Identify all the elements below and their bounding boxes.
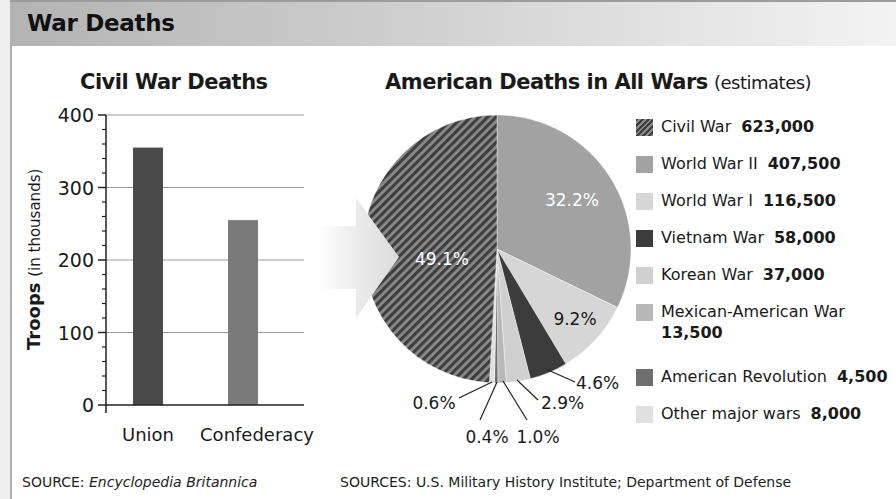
legend-item: Vietnam War58,000 (636, 228, 836, 247)
legend-swatch (636, 267, 653, 284)
leader-line (480, 382, 497, 420)
legend-label: American Revolution (661, 367, 827, 386)
y-tick-label: 400 (58, 104, 94, 126)
legend-swatch (636, 406, 653, 423)
pie-percent-label: 49.1% (415, 249, 469, 269)
pie-chart (363, 115, 631, 383)
legend-label: Mexican-American War (661, 302, 845, 321)
legend-item: Civil War623,000 (636, 117, 814, 136)
legend-label: World War I (661, 191, 753, 210)
legend-value: 8,000 (811, 404, 862, 423)
y-tick-label: 200 (58, 249, 94, 271)
y-tick-label: 300 (58, 177, 94, 199)
bar-union (133, 148, 163, 405)
pie-source: SOURCES: U.S. Military History Institute… (340, 474, 791, 490)
pie-percent-label: 0.4% (465, 427, 508, 447)
legend-value: 623,000 (741, 117, 814, 136)
legend-label: World War II (661, 154, 758, 173)
legend-swatch (636, 119, 653, 136)
legend-value: 407,500 (768, 154, 841, 173)
bar-source: SOURCE: Encyclopedia Britannica (22, 474, 257, 490)
legend-swatch (636, 193, 653, 210)
leader-line (517, 380, 538, 400)
legend-item: Korean War37,000 (636, 265, 825, 284)
y-tick-label: 100 (58, 322, 94, 344)
legend-label: Korean War (661, 265, 753, 284)
legend-item: American Revolution4,500 (636, 367, 888, 386)
legend-item: World War I116,500 (636, 191, 836, 210)
legend-label: Vietnam War (661, 228, 764, 247)
legend-swatch (636, 230, 653, 247)
legend-value: 58,000 (774, 228, 836, 247)
y-tick-label: 0 (82, 394, 94, 416)
legend-value: 37,000 (763, 265, 825, 284)
bar-chart: 0100200300400UnionConfederacy (58, 104, 315, 445)
legend-swatch (636, 156, 653, 173)
pie-percent-label: 4.6% (576, 373, 619, 393)
pie-percent-label: 32.2% (545, 190, 599, 210)
sources-label: SOURCES: (340, 474, 411, 490)
legend-label: Civil War (661, 117, 731, 136)
source-text: Encyclopedia Britannica (89, 474, 257, 490)
pie-percent-label: 0.6% (412, 393, 455, 413)
legend-label: Other major wars (661, 404, 801, 423)
legend-value: 4,500 (837, 367, 888, 386)
sources-text: U.S. Military History Institute; Departm… (416, 474, 791, 490)
bar-confederacy (228, 220, 258, 405)
legend-value: 116,500 (763, 191, 836, 210)
source-label: SOURCE: (22, 474, 85, 490)
legend-swatch (636, 304, 653, 321)
legend-item: Mexican-American War13,500 (636, 302, 876, 342)
leader-line (548, 370, 575, 382)
x-category-label: Union (122, 424, 174, 445)
charts-canvas: 0100200300400UnionConfederacy 32.2%9.2%4… (0, 0, 896, 499)
pie-percent-label: 1.0% (516, 427, 559, 447)
leader-line (459, 382, 492, 398)
x-category-label: Confederacy (200, 424, 314, 445)
legend-value: 13,500 (661, 323, 876, 342)
pie-percent-label: 9.2% (553, 309, 596, 329)
legend-item: Other major wars8,000 (636, 404, 861, 423)
legend-swatch (636, 369, 653, 386)
pie-percent-label: 2.9% (541, 393, 584, 413)
legend-item: World War II407,500 (636, 154, 841, 173)
